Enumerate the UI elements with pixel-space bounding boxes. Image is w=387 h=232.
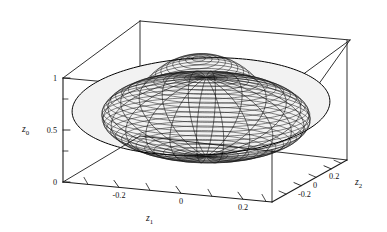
tick-label-z1-0: 0 xyxy=(179,197,183,206)
tick-label-z1-neg02: -0.2 xyxy=(113,191,126,200)
box-edge-bottom-left-back xyxy=(63,136,140,182)
axis-title-z1: z1 xyxy=(145,212,153,225)
box-edge-top-back-right xyxy=(140,21,350,40)
axis-z0-ticks xyxy=(63,78,70,182)
axis-z1-ticks xyxy=(84,177,266,201)
plot-figure: 1 0.5 0 -0.2 0 0.2 -0.2 0 0.2 z0 z1 z2 xyxy=(0,0,387,232)
axis-title-z0: z0 xyxy=(21,123,30,136)
tick-label-z2-0: 0 xyxy=(313,181,317,190)
tick-label-z0-0: 0 xyxy=(53,178,57,187)
tick-label-z2-02: 0.2 xyxy=(329,172,339,181)
axis-title-z2: z2 xyxy=(354,176,363,189)
plot-canvas: 1 0.5 0 -0.2 0 0.2 -0.2 0 0.2 z0 z1 z2 xyxy=(0,0,387,232)
axis-z1-line xyxy=(63,182,272,202)
tick-label-z2-neg02: -0.2 xyxy=(298,190,311,199)
tick-label-z0-1: 1 xyxy=(53,74,57,83)
tick-label-z0-05: 0.5 xyxy=(47,126,57,135)
tick-label-z1-02: 0.2 xyxy=(238,203,248,212)
